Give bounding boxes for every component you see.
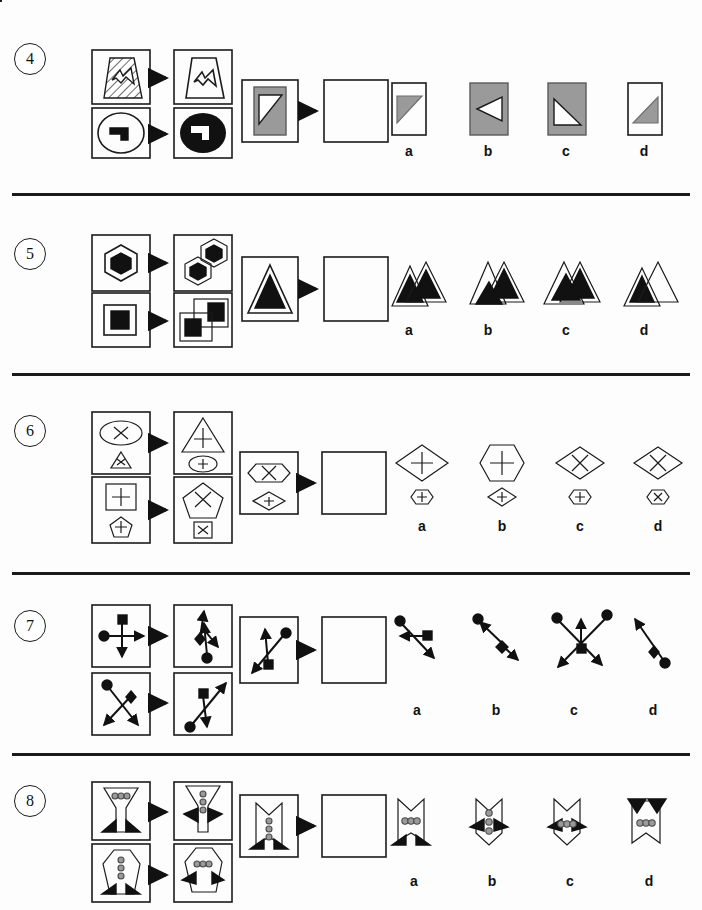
option-a-figure xyxy=(395,616,434,658)
item-7-examples xyxy=(90,603,240,748)
item-number-badge: 5 xyxy=(14,238,46,270)
option-d-figure xyxy=(635,619,670,668)
option-b-figure xyxy=(480,445,524,506)
item-number-badge: 7 xyxy=(14,610,46,642)
option-letter-c: c xyxy=(556,322,576,338)
item-number-badge: 4 xyxy=(14,43,46,75)
option-letter-a: a xyxy=(407,702,427,718)
answer-box xyxy=(324,257,388,321)
item-6-examples xyxy=(90,410,240,550)
item-number-badge: 6 xyxy=(14,415,46,447)
option-letter-c: c xyxy=(560,873,580,889)
item-8-examples xyxy=(90,780,240,910)
example-1-left-panel xyxy=(0,0,2,2)
option-a-figure xyxy=(396,445,448,504)
option-c-figure xyxy=(552,610,612,667)
option-letter-d: d xyxy=(639,873,659,889)
item-8: 8 xyxy=(0,755,702,910)
option-letter-b: b xyxy=(478,143,498,159)
item-5-options[interactable] xyxy=(392,260,682,320)
item-8-source-and-answer xyxy=(238,793,388,871)
option-b-figure xyxy=(470,799,508,845)
option-c-figure xyxy=(548,799,586,845)
option-d-figure xyxy=(624,262,678,306)
item-6-options[interactable] xyxy=(392,443,682,528)
option-d-figure xyxy=(634,447,682,504)
source-panel xyxy=(240,617,298,683)
option-letter-b: b xyxy=(482,873,502,889)
option-letter-a: a xyxy=(399,143,419,159)
option-letter-d: d xyxy=(648,518,668,534)
item-number-badge: 8 xyxy=(14,785,46,817)
option-letter-a: a xyxy=(412,518,432,534)
option-letter-d: d xyxy=(634,322,654,338)
option-letter-c: c xyxy=(570,518,590,534)
option-d-figure xyxy=(628,799,666,843)
option-letter-c: c xyxy=(556,143,576,159)
option-letter-d: d xyxy=(634,143,654,159)
option-b-figure xyxy=(470,262,524,304)
option-letter-b: b xyxy=(492,518,512,534)
option-letter-b: b xyxy=(486,702,506,718)
answer-box xyxy=(322,617,386,683)
option-c-figure xyxy=(548,83,586,135)
option-letter-a: a xyxy=(399,322,419,338)
option-letter-d: d xyxy=(643,702,663,718)
item-4-source-and-answer xyxy=(240,78,390,148)
item-6: 6 xyxy=(0,375,702,575)
option-letter-c: c xyxy=(564,702,584,718)
option-letter-b: b xyxy=(478,322,498,338)
option-letter-a: a xyxy=(404,873,424,889)
option-b-figure xyxy=(470,83,508,135)
item-7: 7 xyxy=(0,575,702,760)
item-5-examples xyxy=(90,233,240,348)
option-a-figure xyxy=(392,799,430,845)
option-c-figure xyxy=(556,447,604,504)
answer-box xyxy=(322,452,386,514)
item-7-options[interactable] xyxy=(392,613,682,693)
item-4-options[interactable] xyxy=(392,83,672,139)
item-8-options[interactable] xyxy=(392,797,682,867)
option-a-figure xyxy=(392,262,446,306)
item-5-source-and-answer xyxy=(240,255,390,327)
answer-box xyxy=(322,795,386,857)
answer-box xyxy=(324,80,388,142)
option-d-figure xyxy=(628,83,662,135)
test-page: 4 xyxy=(0,0,702,910)
option-c-figure xyxy=(544,262,600,304)
option-b-figure xyxy=(473,614,518,660)
item-6-source-and-answer xyxy=(238,450,388,540)
item-4: 4 xyxy=(0,0,702,200)
option-a-figure xyxy=(392,83,426,135)
item-5: 5 xyxy=(0,195,702,380)
item-7-source-and-answer xyxy=(238,615,388,695)
item-4-examples xyxy=(90,48,240,160)
